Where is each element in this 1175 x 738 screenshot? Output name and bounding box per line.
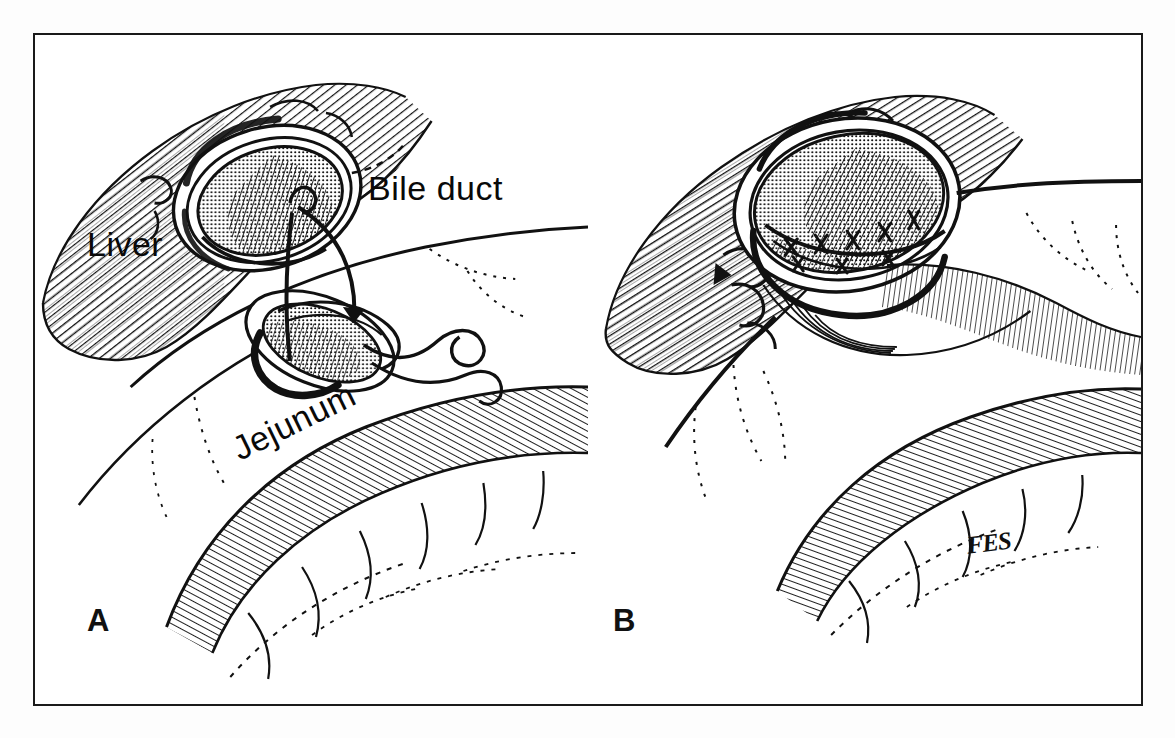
- panel-a: [35, 35, 588, 704]
- figure-root: Bile duct Liver Jejunum A B FES: [0, 0, 1175, 738]
- panel-a-illustration: [35, 35, 588, 704]
- panel-b: [588, 35, 1141, 704]
- figure-frame: Bile duct Liver Jejunum A B FES: [33, 33, 1143, 706]
- panel-b-letter: B: [613, 605, 635, 636]
- label-bile-duct: Bile duct: [368, 171, 503, 205]
- panel-a-letter: A: [87, 605, 109, 636]
- panel-a-scene: [35, 55, 588, 679]
- jejunum-loop-b: [777, 389, 1141, 643]
- artist-signature: FES: [965, 527, 1012, 560]
- label-liver: Liver: [87, 227, 163, 261]
- panel-b-illustration: [588, 35, 1141, 704]
- panel-b-scene: [588, 65, 1141, 643]
